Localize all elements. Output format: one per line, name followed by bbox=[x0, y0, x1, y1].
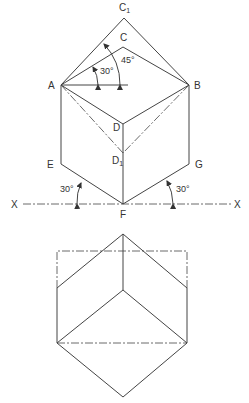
cube-projection-diagram: 30° 45° 30° 30° C1 C A B D D1 E G F X X bbox=[0, 0, 249, 403]
angle-label-30-left: 30° bbox=[60, 184, 74, 194]
label-x-right: X bbox=[234, 199, 241, 210]
angle-arc-30-right bbox=[167, 181, 173, 204]
chain-b-d1 bbox=[123, 85, 189, 153]
inner-right-edge bbox=[123, 290, 187, 343]
edge-a-c1-b bbox=[61, 18, 189, 85]
front-view: 30° 45° 30° 30° bbox=[60, 18, 190, 204]
chain-rectangle bbox=[57, 251, 187, 288]
label-b: B bbox=[194, 80, 201, 91]
label-d: D bbox=[113, 122, 120, 133]
angle-label-30-top: 30° bbox=[100, 66, 114, 76]
label-x-left: X bbox=[11, 199, 18, 210]
label-c1: C1 bbox=[119, 2, 130, 14]
label-c: C bbox=[120, 32, 127, 43]
label-f: F bbox=[120, 209, 126, 220]
inner-left-edge bbox=[57, 290, 123, 343]
chain-a-d1 bbox=[61, 85, 123, 153]
label-a: A bbox=[48, 80, 55, 91]
point-labels: C1 C A B D D1 E G F X X bbox=[11, 2, 241, 220]
label-g: G bbox=[195, 159, 203, 170]
label-e: E bbox=[47, 159, 54, 170]
angle-arc-30-top bbox=[93, 67, 98, 85]
top-view bbox=[57, 234, 187, 397]
label-d1: D1 bbox=[112, 155, 123, 167]
angle-label-30-right: 30° bbox=[176, 184, 190, 194]
angle-label-45-top: 45° bbox=[121, 55, 135, 65]
angle-arc-30-left bbox=[77, 183, 81, 204]
outer-hexagon bbox=[57, 234, 187, 397]
